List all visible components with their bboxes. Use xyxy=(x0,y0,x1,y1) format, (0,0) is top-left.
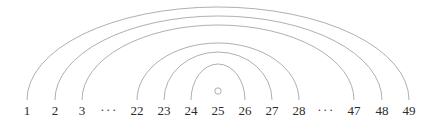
axis-label-24: 24 xyxy=(185,104,198,117)
arc-diagram-figure: 123···22232425262728···474849 xyxy=(0,0,436,126)
axis-label-1: 1 xyxy=(24,104,31,117)
axis-label-27: 27 xyxy=(266,104,279,117)
arc-2-48 xyxy=(55,16,382,100)
axis-label-3: 3 xyxy=(79,104,86,117)
axis-label-25: 25 xyxy=(212,104,225,117)
axis-label-2: 2 xyxy=(52,104,59,117)
axis-label-48: 48 xyxy=(376,104,389,117)
axis-label-26: 26 xyxy=(239,104,252,117)
axis-label-49: 49 xyxy=(403,104,416,117)
axis-label-23: 23 xyxy=(158,104,171,117)
arc-paths-group xyxy=(27,7,409,100)
axis-label-22: 22 xyxy=(131,104,144,117)
axis-label-47: 47 xyxy=(348,104,361,117)
center-marker-group xyxy=(215,88,221,94)
arc-24-26 xyxy=(191,64,245,100)
axis-label-ellipsis: ··· xyxy=(100,103,118,116)
axis-label-ellipsis: ··· xyxy=(317,103,335,116)
axis-label-28: 28 xyxy=(293,104,306,117)
center-node-marker xyxy=(215,88,221,94)
